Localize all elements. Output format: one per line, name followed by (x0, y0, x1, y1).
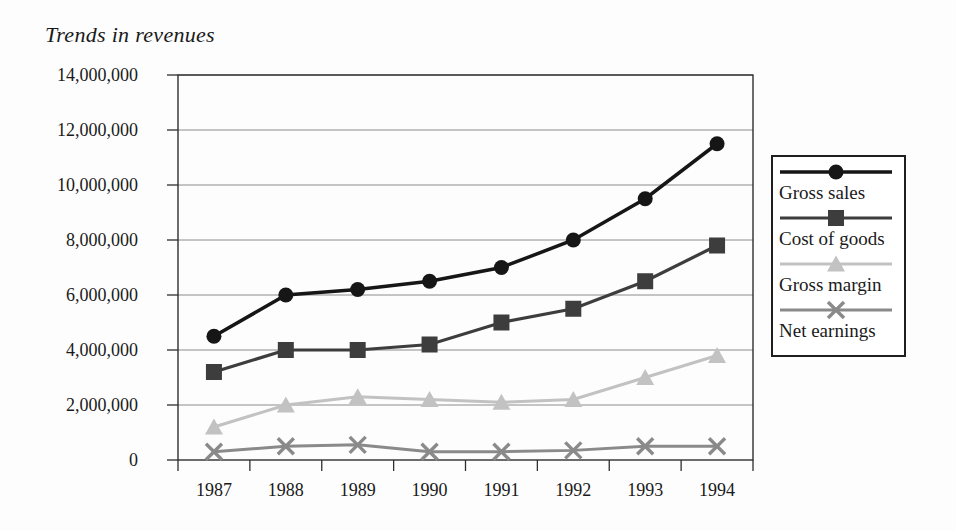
circle-marker (566, 233, 581, 248)
circle-marker (638, 191, 653, 206)
legend-label-cost-of-goods: Cost of goods (779, 227, 904, 250)
legend-key-cost-of-goods (779, 209, 899, 227)
legend-key-net-earnings (779, 301, 899, 319)
legend-label-gross-sales: Gross sales (779, 181, 904, 204)
square-marker (278, 342, 294, 358)
legend-entry-cost-of-goods: Cost of goods (779, 209, 904, 255)
y-axis-label: 0 (34, 449, 138, 471)
triangle-marker (708, 347, 726, 363)
chart-page: Trends in revenues 02,000,0004,000,0006,… (0, 0, 956, 531)
circle-marker (350, 282, 365, 297)
legend-label-gross-margin: Gross margin (779, 273, 904, 296)
square-marker (637, 273, 653, 289)
circle-marker (422, 274, 437, 289)
square-marker (350, 342, 366, 358)
chart-legend: Gross salesCost of goodsGross marginNet … (771, 155, 906, 357)
legend-entry-net-earnings: Net earnings (779, 301, 904, 347)
x-axis-label: 1989 (322, 479, 394, 501)
legend-key-gross-margin (779, 255, 899, 273)
legend-key-gross-sales (779, 163, 899, 181)
square-marker (493, 315, 509, 331)
circle-marker (206, 329, 221, 344)
circle-marker (278, 288, 293, 303)
x-axis-label: 1991 (465, 479, 537, 501)
series-gross-margin (205, 347, 726, 435)
square-marker (828, 210, 844, 226)
y-axis-label: 14,000,000 (34, 64, 138, 86)
square-marker (565, 301, 581, 317)
series-cost-of-goods (206, 238, 725, 381)
x-axis-label: 1994 (681, 479, 753, 501)
legend-entry-gross-sales: Gross sales (779, 163, 904, 209)
square-marker (206, 364, 222, 380)
circle-marker (710, 136, 725, 151)
x-axis-label: 1992 (537, 479, 609, 501)
circle-marker (494, 260, 509, 275)
x-axis-label: 1987 (178, 479, 250, 501)
y-axis-label: 2,000,000 (34, 394, 138, 416)
x-axis-label: 1988 (250, 479, 322, 501)
square-marker (709, 238, 725, 254)
square-marker (422, 337, 438, 353)
series-net-earnings (206, 437, 725, 460)
y-axis-label: 6,000,000 (34, 284, 138, 306)
circle-marker (829, 165, 844, 180)
legend-entry-gross-margin: Gross margin (779, 255, 904, 301)
y-axis-label: 12,000,000 (34, 119, 138, 141)
y-axis-label: 8,000,000 (34, 229, 138, 251)
x-axis-label: 1993 (609, 479, 681, 501)
y-axis-label: 4,000,000 (34, 339, 138, 361)
legend-label-net-earnings: Net earnings (779, 319, 904, 342)
y-axis-label: 10,000,000 (34, 174, 138, 196)
series-line-gross-margin (214, 356, 717, 428)
x-axis-label: 1990 (394, 479, 466, 501)
